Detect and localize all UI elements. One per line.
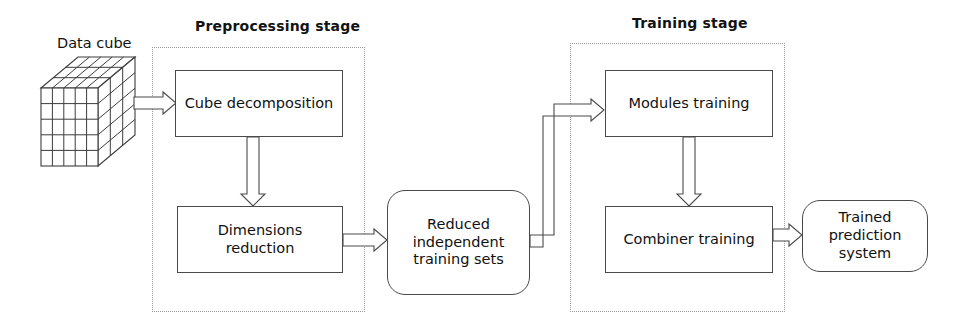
node-trained-prediction-system[interactable]: Trained prediction system xyxy=(802,200,928,272)
node-cube-decomposition-label: Cube decomposition xyxy=(185,95,334,113)
node-reduced-independent-training-sets-label: Reduced independent training sets xyxy=(413,216,505,269)
node-combiner-training-label: Combiner training xyxy=(623,231,754,249)
stage-label-preprocessing: Preprocessing stage xyxy=(195,18,360,34)
node-modules-training[interactable]: Modules training xyxy=(605,70,773,137)
stage-label-training: Training stage xyxy=(632,15,748,31)
node-reduced-independent-training-sets[interactable]: Reduced independent training sets xyxy=(387,190,530,295)
node-combiner-training[interactable]: Combiner training xyxy=(605,206,773,273)
node-dimensions-reduction-label: Dimensions reduction xyxy=(182,222,338,257)
data-cube-label: Data cube xyxy=(57,35,132,51)
data-cube-icon xyxy=(41,57,135,166)
node-modules-training-label: Modules training xyxy=(628,95,749,113)
node-dimensions-reduction[interactable]: Dimensions reduction xyxy=(177,206,343,273)
node-cube-decomposition[interactable]: Cube decomposition xyxy=(175,70,343,137)
node-trained-prediction-system-label: Trained prediction system xyxy=(807,209,923,262)
flowchart-canvas: Preprocessing stage Training stage Data … xyxy=(0,0,963,330)
